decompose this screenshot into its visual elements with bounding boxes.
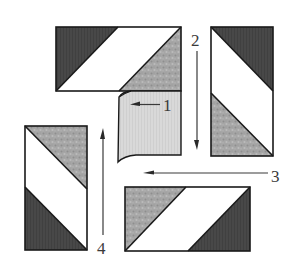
step-2-label: 2 [191, 31, 200, 50]
step-4-arrow: 4 [97, 128, 106, 258]
right-block [211, 27, 273, 156]
quilt-assembly-diagram: 1 2 3 4 [0, 0, 295, 262]
step-2-arrow: 2 [191, 31, 200, 150]
arrow-down-icon [194, 140, 199, 150]
left-block [25, 126, 87, 250]
step-3-label: 3 [271, 167, 280, 186]
bottom-block [125, 187, 250, 251]
step-4-label: 4 [97, 239, 106, 258]
step-3-arrow: 3 [143, 167, 280, 186]
top-block [56, 27, 181, 91]
center-square [118, 91, 181, 162]
arrow-up-icon [100, 128, 105, 139]
center-square-shape [118, 91, 181, 162]
arrow-left-icon [143, 171, 154, 175]
step-1-label: 1 [163, 96, 172, 115]
